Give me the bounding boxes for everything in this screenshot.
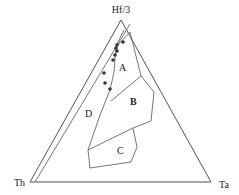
data-point (121, 40, 125, 44)
field-label-b: B (130, 96, 137, 107)
data-point (102, 71, 106, 75)
field-b-boundary (88, 76, 154, 150)
outer-triangle (30, 20, 211, 182)
data-point (103, 81, 107, 85)
field-c-boundary (88, 128, 137, 168)
field-label-d: D (85, 108, 92, 119)
field-label-a: A (119, 62, 127, 73)
data-point (108, 87, 112, 91)
field-label-c: C (117, 145, 124, 156)
vertex-label-ta: Ta (219, 179, 229, 190)
data-point (115, 49, 119, 53)
data-point (111, 58, 115, 62)
data-point (113, 53, 117, 57)
vertex-label-hf3: Hf/3 (112, 4, 130, 15)
vertex-label-th: Th (14, 177, 25, 188)
ternary-diagram: Hf/3 Th Ta A B C D (0, 0, 239, 195)
